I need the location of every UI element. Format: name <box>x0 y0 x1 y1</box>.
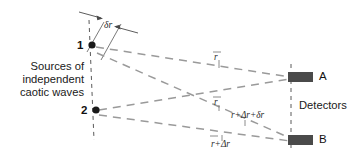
sources-caption: Sources of independent caotic waves <box>0 60 84 100</box>
source-dot-2 <box>92 106 99 113</box>
source-axis-dashed-line <box>89 20 94 140</box>
sources-caption-line-2: independent <box>0 73 84 86</box>
chaotic-source-interferometry-diagram: Sources of independent caotic waves Dete… <box>0 0 356 163</box>
path-length-label-source1-detectorB: r+Δr+δr <box>231 110 264 121</box>
delta-r-arrow-right <box>114 25 138 33</box>
ray-source2-to-detectorA <box>99 79 290 110</box>
detector-label-A: A <box>319 70 327 84</box>
detector-A-body <box>288 72 313 82</box>
separation-label-delta-r: δr <box>104 19 112 30</box>
ray-source1-to-detectorB <box>97 53 290 138</box>
path-length-label-source1-detectorA: r <box>214 52 218 63</box>
detector-B-body <box>288 135 313 145</box>
sources-caption-line-3: caotic waves <box>0 86 84 99</box>
source-label-2: 2 <box>81 104 87 118</box>
source-label-1: 1 <box>77 39 83 53</box>
delta-r-arrow-left <box>79 12 103 20</box>
path-length-label-source2-detectorA: r <box>214 97 218 108</box>
ray-source1-to-detectorA <box>96 47 290 77</box>
detector-label-B: B <box>319 133 327 147</box>
source-dot-1 <box>88 41 95 48</box>
sources-caption-line-1: Sources of <box>0 60 84 73</box>
detectors-caption: Detectors <box>299 99 347 112</box>
path-length-label-source2-detectorB: r+Δr <box>211 139 230 150</box>
